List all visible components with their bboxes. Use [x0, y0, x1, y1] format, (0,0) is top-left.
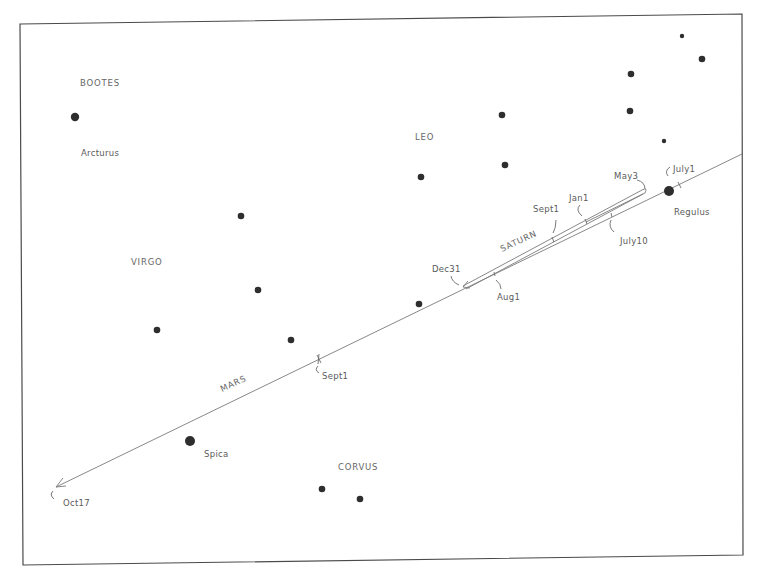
- leader-oct17: [51, 491, 54, 499]
- constellation-label-bootes: BOOTES: [80, 78, 120, 88]
- star: [627, 108, 634, 115]
- planet-path-line: [56, 154, 742, 487]
- date-label-oct17: Oct17: [63, 498, 90, 508]
- star: [255, 287, 262, 294]
- constellation-label-leo: LEO: [415, 132, 434, 142]
- leader-sept1: [553, 220, 556, 233]
- saturn-july10-tick: [611, 213, 612, 217]
- date-label-saturn-sept1: Sept1: [533, 204, 559, 214]
- star: [628, 71, 635, 78]
- mars-sept1-tick-2: [318, 354, 319, 364]
- star: [416, 301, 423, 308]
- star-label-spica: Spica: [204, 449, 229, 459]
- leader-july1: [666, 167, 670, 176]
- leader-mars-sept1: [316, 366, 319, 373]
- leader-aug1: [496, 280, 501, 289]
- star-chart: BOOTES VIRGO LEO CORVUS Arcturus Regulus…: [0, 0, 759, 578]
- named-stars: Arcturus Regulus Spica: [71, 113, 710, 459]
- star: [418, 174, 425, 181]
- star: [502, 162, 509, 169]
- chart-frame: [20, 14, 743, 565]
- date-label-jan1: Jan1: [568, 193, 589, 203]
- date-label-july1: July1: [672, 164, 695, 174]
- star: [499, 112, 506, 119]
- leader-may3: [637, 180, 645, 189]
- star: [699, 56, 706, 63]
- date-label-mars-sept1: Sept1: [322, 371, 348, 381]
- star: [154, 327, 161, 334]
- star-spica: [185, 436, 195, 446]
- constellation-label-virgo: VIRGO: [131, 257, 163, 267]
- leader-july10: [610, 220, 614, 232]
- planet-label-saturn: SATURN: [499, 228, 539, 254]
- date-label-aug1: Aug1: [497, 292, 520, 302]
- star-label-regulus: Regulus: [674, 207, 710, 217]
- constellation-labels: BOOTES VIRGO LEO CORVUS: [80, 78, 434, 472]
- star-regulus: [664, 186, 674, 196]
- star: [319, 486, 326, 493]
- leader-jan1: [578, 205, 582, 216]
- date-label-july10: July10: [619, 236, 648, 246]
- leader-dec31: [451, 276, 459, 285]
- stars: [154, 34, 706, 503]
- star: [357, 496, 364, 503]
- planet-label-mars: MARS: [219, 373, 248, 394]
- date-label-dec31: Dec31: [432, 264, 461, 274]
- star: [662, 139, 666, 143]
- constellation-label-corvus: CORVUS: [338, 462, 378, 472]
- star-label-arcturus: Arcturus: [81, 148, 119, 158]
- star: [288, 337, 295, 344]
- star: [238, 213, 245, 220]
- date-labels: Oct17 Sept1 Dec31 Aug1 Sept1 Jan1 July10…: [63, 164, 695, 508]
- star: [680, 34, 684, 38]
- date-label-may3: May3: [614, 171, 638, 181]
- saturn-aug1-tick: [494, 272, 495, 276]
- star-arcturus: [71, 113, 79, 121]
